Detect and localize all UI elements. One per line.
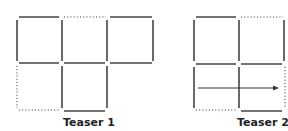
teaser-2-caption: Teaser 2 bbox=[237, 116, 288, 129]
teaser-1-caption: Teaser 1 bbox=[63, 116, 115, 129]
teaser-1-figure bbox=[17, 17, 153, 111]
teaser-2-figure bbox=[194, 17, 285, 111]
diagram-canvas bbox=[0, 0, 288, 131]
arrow-head-icon bbox=[273, 86, 279, 91]
